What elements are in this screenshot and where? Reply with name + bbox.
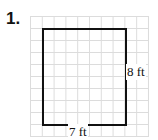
height-label: 8 ft — [126, 64, 146, 80]
width-label: 7 ft — [68, 124, 88, 140]
problem-number: 1. — [6, 9, 20, 29]
rectangle-shape — [42, 28, 127, 126]
